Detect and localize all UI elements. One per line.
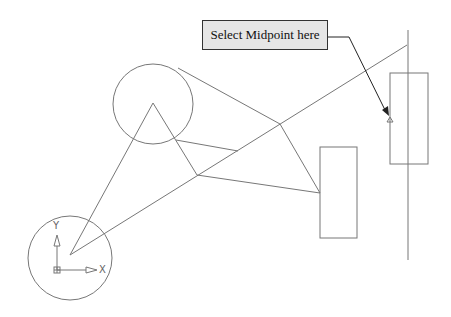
- lower-circle[interactable]: [28, 216, 112, 300]
- triangle-left[interactable]: [70, 103, 153, 255]
- callout-label: Select Midpoint here: [202, 20, 328, 50]
- arrowhead-icon: [382, 106, 389, 116]
- link-upper[interactable]: [176, 140, 238, 151]
- tangent-line[interactable]: [178, 68, 280, 124]
- leader-line: [328, 37, 386, 112]
- ucs-y-label: Y: [53, 220, 59, 231]
- middle-rectangle[interactable]: [320, 147, 357, 238]
- right-rectangle[interactable]: [390, 73, 428, 164]
- long-line[interactable]: [70, 45, 407, 255]
- link-lower[interactable]: [197, 175, 320, 193]
- link-hub[interactable]: [280, 124, 320, 193]
- ucs-x-label: X: [99, 264, 106, 275]
- triangle-right[interactable]: [153, 103, 197, 175]
